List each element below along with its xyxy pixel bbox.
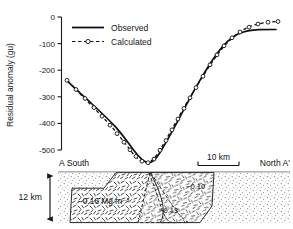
y-tick-0: 0 [51, 13, 56, 22]
series-calculated-line [67, 22, 278, 163]
section-left-label: A South [59, 158, 89, 168]
depth-scale: 12 km [19, 176, 50, 219]
series-observed-line [68, 30, 276, 163]
y-axis-title: Residual anomaly (gu) [5, 43, 15, 127]
scale-bar-label: 10 km [207, 152, 230, 162]
body-013-label: −0.13 [159, 206, 178, 215]
y-tick-1: -100 [39, 40, 56, 49]
body-016-label: −0.16 Mg m⁻³ [78, 196, 129, 206]
legend-swatch-calculated [72, 39, 104, 43]
body-010-label: −0.10 [186, 182, 205, 191]
legend-label-calculated: Calculated [111, 37, 152, 47]
figure-panel: 0 -100 -200 -300 -400 -500 Residual anom… [0, 0, 293, 229]
section-right-label: North A' [260, 158, 291, 168]
y-tick-2: -200 [39, 66, 56, 75]
y-tick-4: -400 [39, 119, 56, 128]
y-axis [58, 17, 62, 150]
scale-bar: 10 km [198, 152, 239, 166]
depth-scale-label: 12 km [19, 192, 42, 202]
y-tick-3: -300 [39, 93, 56, 102]
y-tick-5: -500 [39, 146, 56, 155]
legend-label-observed: Observed [111, 23, 148, 33]
legend: Observed Calculated [72, 23, 152, 47]
y-tick-labels: 0 -100 -200 -300 -400 -500 [39, 13, 56, 155]
figure-svg: 0 -100 -200 -300 -400 -500 Residual anom… [0, 0, 293, 229]
